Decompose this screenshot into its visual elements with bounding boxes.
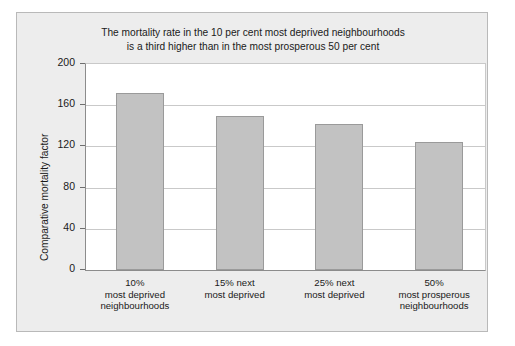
x-axis-label-line: most prosperous bbox=[372, 289, 496, 301]
bar bbox=[216, 116, 264, 271]
y-axis-title: Comparative mortality factor bbox=[39, 134, 50, 261]
y-axis-tick-label: 80 bbox=[37, 181, 75, 192]
x-axis-label-line: neighbourhoods bbox=[372, 300, 496, 312]
chart-figure: The mortality rate in the 10 per cent mo… bbox=[0, 0, 515, 346]
bar bbox=[116, 93, 164, 270]
x-axis-label-line: 50% bbox=[372, 277, 496, 289]
bar bbox=[315, 124, 363, 270]
chart-title-line-2: is a third higher than in the most prosp… bbox=[57, 40, 449, 54]
plot-area bbox=[85, 63, 486, 271]
x-axis-label: 50%most prosperousneighbourhoods bbox=[372, 277, 496, 312]
chart-title: The mortality rate in the 10 per cent mo… bbox=[57, 26, 449, 54]
bar bbox=[415, 142, 463, 270]
y-axis-tick-label: 0 bbox=[37, 263, 75, 274]
chart-panel: The mortality rate in the 10 per cent mo… bbox=[16, 12, 488, 332]
y-axis-tick-label: 200 bbox=[37, 57, 75, 68]
y-axis-tick-label: 40 bbox=[37, 222, 75, 233]
chart-title-line-1: The mortality rate in the 10 per cent mo… bbox=[57, 26, 449, 40]
y-axis-tick-label: 160 bbox=[37, 98, 75, 109]
x-axis-label-line: neighbourhoods bbox=[73, 300, 197, 312]
y-axis-tick-label: 120 bbox=[37, 139, 75, 150]
